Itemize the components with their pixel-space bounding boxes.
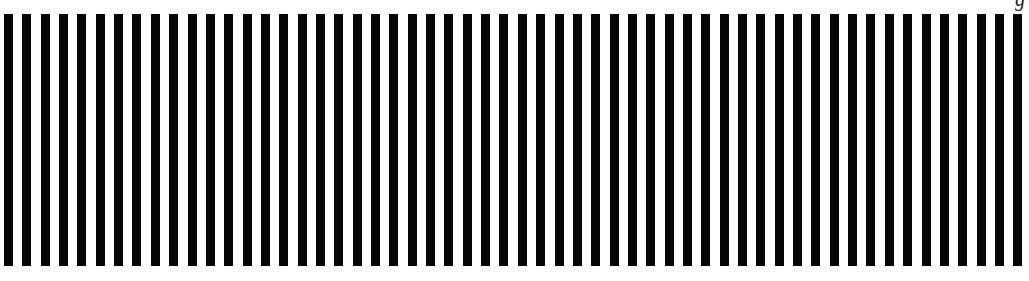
- stripe-bar: [77, 14, 86, 266]
- stripe-bar: [922, 14, 931, 266]
- stripe-bar: [426, 14, 435, 266]
- stripe-bar: [610, 14, 619, 266]
- stripe-bar: [96, 14, 105, 266]
- stripe-bar: [41, 14, 50, 266]
- stripe-bar: [756, 14, 765, 266]
- stripe-bar: [720, 14, 729, 266]
- stripe-bar: [646, 14, 655, 266]
- stripe-bar: [4, 14, 13, 266]
- stripe-bar: [683, 14, 692, 266]
- stripe-bar: [224, 14, 233, 266]
- stripe-bar: [408, 14, 417, 266]
- stripe-bar: [114, 14, 123, 266]
- stripe-bar: [279, 14, 288, 266]
- stripe-bar: [885, 14, 894, 266]
- stripe-bar: [1013, 14, 1022, 266]
- stripe-bar: [866, 14, 875, 266]
- stripe-bar: [261, 14, 270, 266]
- stripe-bar: [591, 14, 600, 266]
- stripe-bar: [188, 14, 197, 266]
- stripe-bar: [958, 14, 967, 266]
- stripe-bar: [334, 14, 343, 266]
- stripe-bar: [738, 14, 747, 266]
- stripe-bar: [811, 14, 820, 266]
- stripe-bar: [169, 14, 178, 266]
- stripe-bar: [555, 14, 564, 266]
- stripe-bar: [353, 14, 362, 266]
- stripe-bar: [628, 14, 637, 266]
- stripe-bar: [371, 14, 380, 266]
- stripe-bar: [536, 14, 545, 266]
- stripe-bar: [444, 14, 453, 266]
- stripe-bar: [903, 14, 912, 266]
- stripe-bar: [977, 14, 986, 266]
- stripe-bar: [481, 14, 490, 266]
- stripe-bar: [518, 14, 527, 266]
- stripe-bar: [775, 14, 784, 266]
- stripe-bar: [848, 14, 857, 266]
- stripe-bar: [995, 14, 1004, 266]
- stripe-bar: [573, 14, 582, 266]
- stripe-bar: [701, 14, 710, 266]
- stripe-bar: [499, 14, 508, 266]
- stripe-bar: [132, 14, 141, 266]
- stripe-bar: [389, 14, 398, 266]
- stripe-bar: [298, 14, 307, 266]
- stripe-bar: [206, 14, 215, 266]
- corner-text-fragment: g: [1015, 0, 1025, 11]
- stripe-bar: [793, 14, 802, 266]
- stripe-bar: [243, 14, 252, 266]
- stripe-bar: [316, 14, 325, 266]
- stripe-bar: [22, 14, 31, 266]
- stripe-bar: [665, 14, 674, 266]
- stripe-pattern: [0, 0, 1029, 281]
- stripe-bar: [940, 14, 949, 266]
- stripe-bar: [830, 14, 839, 266]
- stripe-bar: [151, 14, 160, 266]
- stripe-bar: [463, 14, 472, 266]
- stripe-bar: [59, 14, 68, 266]
